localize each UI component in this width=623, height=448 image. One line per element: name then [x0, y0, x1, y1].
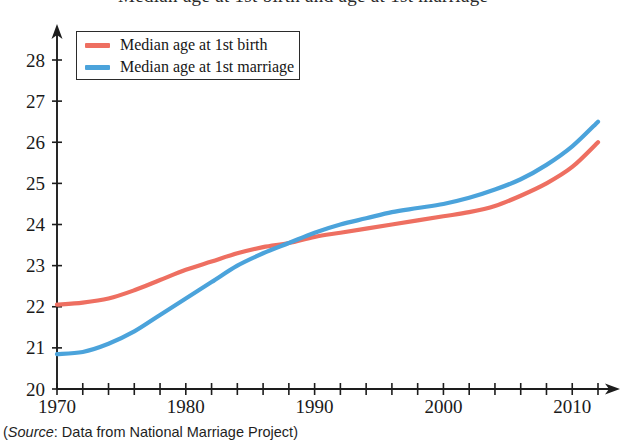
x-tick-label: 1990 — [296, 396, 334, 417]
legend-swatch-marriage — [85, 65, 110, 70]
legend-label-birth: Median age at 1st birth — [120, 36, 268, 54]
source-rest: : Data from National Marriage Project) — [54, 424, 298, 440]
y-tick-label: 27 — [26, 91, 45, 112]
source-word: Source — [8, 424, 54, 440]
source-caption: (Source: Data from National Marriage Pro… — [3, 424, 298, 440]
legend-item-marriage: Median age at 1st marriage — [85, 56, 294, 78]
y-tick-label: 28 — [26, 50, 45, 71]
y-tick-label: 21 — [26, 337, 45, 358]
y-tick-label: 25 — [26, 173, 45, 194]
chart-legend: Median age at 1st birth Median age at 1s… — [76, 31, 300, 80]
x-tick-label: 2010 — [553, 396, 591, 417]
legend-item-birth: Median age at 1st birth — [85, 34, 268, 56]
series-line-birth — [57, 142, 598, 304]
y-tick-label: 23 — [26, 255, 45, 276]
series-line-marriage — [57, 122, 598, 354]
y-tick-label: 22 — [26, 296, 45, 317]
legend-swatch-birth — [85, 43, 110, 48]
series-group — [57, 122, 598, 354]
y-tick-label: 24 — [26, 214, 46, 235]
x-tick-label: 1970 — [38, 396, 76, 417]
x-tick-label: 1980 — [167, 396, 205, 417]
figure-container: Median age at 1st birth and age at 1st m… — [0, 0, 623, 448]
x-tick-label: 2000 — [424, 396, 462, 417]
y-tick-label: 26 — [26, 132, 45, 153]
legend-label-marriage: Median age at 1st marriage — [120, 58, 294, 76]
